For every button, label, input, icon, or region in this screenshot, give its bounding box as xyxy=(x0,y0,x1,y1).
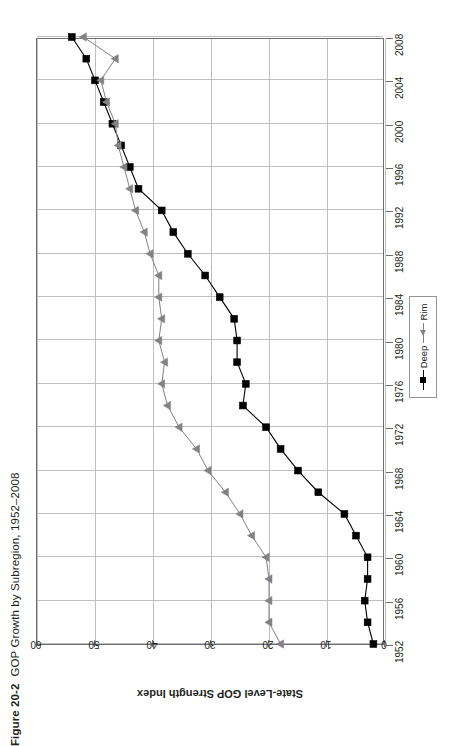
square-marker-icon xyxy=(418,370,428,390)
year-axis-tick xyxy=(386,428,393,429)
data-point-rim xyxy=(155,271,162,279)
data-point-deep xyxy=(315,489,322,496)
data-point-deep xyxy=(242,380,249,387)
data-point-deep xyxy=(135,185,142,192)
year-axis-tick xyxy=(386,298,393,299)
data-point-rim xyxy=(204,466,211,474)
data-point-deep xyxy=(216,294,223,301)
value-axis-label: 40 xyxy=(140,639,164,650)
value-axis-label: 60 xyxy=(24,639,48,650)
square-marker xyxy=(420,377,426,383)
year-axis-tick xyxy=(386,255,393,256)
legend-entry-deep: Deep xyxy=(418,346,429,391)
data-point-deep xyxy=(240,402,247,409)
year-axis-tick xyxy=(386,342,393,343)
year-axis-label: 1960 xyxy=(394,542,407,576)
data-point-rim xyxy=(155,293,162,301)
year-axis-tick xyxy=(386,125,393,126)
year-axis-tick xyxy=(386,211,393,212)
year-axis-label: 1976 xyxy=(394,369,407,403)
data-point-deep xyxy=(234,337,241,344)
triangle-marker-icon xyxy=(418,323,428,343)
data-point-deep xyxy=(353,532,360,539)
data-point-deep xyxy=(202,272,209,279)
year-axis-label: 1968 xyxy=(394,456,407,490)
value-axis-label: 30 xyxy=(198,639,222,650)
year-axis-label: 1988 xyxy=(394,239,407,273)
data-point-rim xyxy=(111,54,118,62)
data-point-deep xyxy=(184,250,191,257)
year-axis-tick xyxy=(386,38,393,39)
data-point-rim xyxy=(265,618,272,626)
legend-entry-rim: Rim xyxy=(418,304,429,343)
year-axis-label: 2000 xyxy=(394,109,407,143)
year-axis-label: 1984 xyxy=(394,282,407,316)
data-point-rim xyxy=(236,510,243,518)
triangle-marker xyxy=(420,330,426,336)
data-point-deep xyxy=(263,424,270,431)
legend-inner: DeepRim xyxy=(410,297,436,397)
data-point-deep xyxy=(83,55,90,62)
data-point-deep xyxy=(158,207,165,214)
data-point-rim xyxy=(155,336,162,344)
data-point-deep xyxy=(361,597,368,604)
year-axis-tick xyxy=(386,81,393,82)
data-point-deep xyxy=(364,554,371,561)
data-point-rim xyxy=(175,423,182,431)
data-point-deep xyxy=(231,315,238,322)
year-axis-tick xyxy=(386,168,393,169)
year-axis-tick xyxy=(386,472,393,473)
year-axis-tick xyxy=(386,558,393,559)
data-point-rim xyxy=(221,488,228,496)
series-plot xyxy=(37,37,385,644)
year-axis-label: 1972 xyxy=(394,412,407,446)
data-point-rim xyxy=(79,33,86,41)
year-axis-label: 1964 xyxy=(394,499,407,533)
series-line-deep xyxy=(72,37,374,644)
data-point-rim xyxy=(247,531,254,539)
year-axis-label: 1980 xyxy=(394,326,407,360)
figure-number: Figure 20-2 xyxy=(9,684,21,746)
data-point-deep xyxy=(364,619,371,626)
chart-legend: DeepRim xyxy=(409,296,437,398)
year-axis-label: 1996 xyxy=(394,152,407,186)
data-point-deep xyxy=(170,229,177,236)
value-axis-label: 50 xyxy=(82,639,106,650)
plot-area xyxy=(36,38,384,645)
year-axis-tick xyxy=(386,602,393,603)
legend-label: Deep xyxy=(418,346,429,369)
data-point-deep xyxy=(295,467,302,474)
data-point-rim xyxy=(265,596,272,604)
figure-caption: Figure 20-2 GOP Growth by Subregion, 195… xyxy=(0,0,30,746)
value-axis-title: State-Level GOP Strength Index xyxy=(60,688,380,700)
value-axis: 6050403020100 xyxy=(20,640,420,680)
value-axis-label: 10 xyxy=(314,639,338,650)
legend-marker xyxy=(420,330,426,336)
chart-rotator xyxy=(36,38,388,645)
year-axis-label: 1992 xyxy=(394,195,407,229)
value-axis-label: 0 xyxy=(372,639,396,650)
data-point-deep xyxy=(234,359,241,366)
data-point-rim xyxy=(262,553,269,561)
data-point-deep xyxy=(126,164,133,171)
year-axis-label: 1956 xyxy=(394,586,407,620)
legend-label: Rim xyxy=(418,304,429,321)
year-axis-tick xyxy=(386,515,393,516)
series-line-rim xyxy=(83,37,280,644)
data-point-deep xyxy=(341,511,348,518)
data-point-deep xyxy=(68,34,75,41)
year-axis-tick xyxy=(386,385,393,386)
legend-marker xyxy=(420,377,426,383)
data-point-rim xyxy=(140,228,147,236)
chart-stage xyxy=(36,38,388,645)
data-point-deep xyxy=(364,576,371,583)
data-point-rim xyxy=(192,445,199,453)
data-point-rim xyxy=(158,380,165,388)
data-point-deep xyxy=(277,445,284,452)
year-axis-label: 2004 xyxy=(394,65,407,99)
year-axis-label: 2008 xyxy=(394,22,407,56)
value-axis-label: 20 xyxy=(256,639,280,650)
